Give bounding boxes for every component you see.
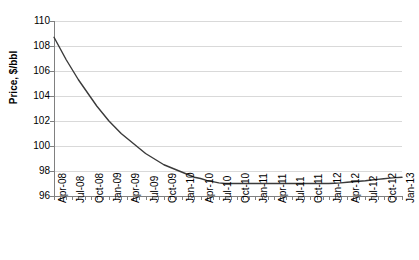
x-axis-tick-label: Apr-09 — [131, 173, 141, 203]
x-axis-tick-label: Jan-09 — [113, 172, 123, 203]
x-axis-tick-label: Oct-08 — [95, 173, 105, 203]
x-axis-tick-label: Jul-08 — [76, 176, 86, 203]
x-axis-tick-label: Jul-12 — [369, 176, 379, 203]
x-axis-tick-label: Oct-10 — [241, 173, 251, 203]
x-axis-tick-label: Jan-13 — [406, 172, 416, 203]
x-axis-tick-label: Jul-11 — [296, 177, 306, 204]
x-axis-tick-label: Jul-10 — [223, 176, 233, 203]
price-line-chart: Price, $/bbl 9698100102104106108110 Apr-… — [0, 0, 419, 260]
x-axis-tick-label: Oct-12 — [388, 173, 398, 203]
x-axis-tick-label: Jul-09 — [150, 176, 160, 203]
x-axis-tick-label: Jan-11 — [259, 173, 269, 203]
x-axis-tick-labels: Apr-08Jul-08Oct-08Jan-09Apr-09Jul-09Oct-… — [0, 0, 419, 260]
x-axis-tick-label: Oct-11 — [314, 174, 324, 203]
x-axis-tick-label: Apr-12 — [351, 173, 361, 203]
x-axis-tick-label: Apr-11 — [278, 174, 288, 203]
x-axis-tick-label: Jan-12 — [333, 172, 343, 203]
x-axis-tick-label: Oct-09 — [168, 173, 178, 203]
x-axis-tick-label: Apr-10 — [205, 173, 215, 203]
x-axis-tick-label: Apr-08 — [58, 173, 68, 203]
x-axis-tick-label: Jan-10 — [186, 172, 196, 203]
